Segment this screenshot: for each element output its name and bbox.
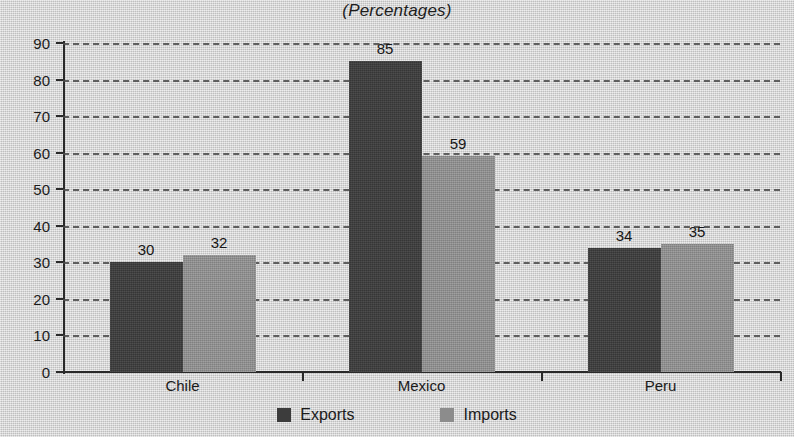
plot-area: 303285593435 <box>63 43 780 372</box>
x-tick-1 <box>302 372 304 381</box>
bar-peru-imports[interactable] <box>661 244 734 372</box>
exports-swatch-icon <box>277 408 291 422</box>
chart-page: (Percentages) 0102030405060708090 303285… <box>0 0 794 437</box>
imports-swatch-icon <box>440 408 454 422</box>
x-axis-label-chile: Chile <box>110 378 256 393</box>
y-axis-label-30: 30 <box>0 255 50 270</box>
legend-label-exports: Exports <box>300 407 354 423</box>
gridline-80 <box>63 80 780 82</box>
y-axis-label-90: 90 <box>0 36 50 51</box>
y-axis-label-80: 80 <box>0 73 50 88</box>
x-axis-label-peru: Peru <box>588 378 734 393</box>
bar-value-peru-imports: 35 <box>661 224 734 239</box>
x-tick-2 <box>541 372 543 381</box>
y-axis-label-10: 10 <box>0 328 50 343</box>
y-axis-label-40: 40 <box>0 219 50 234</box>
y-axis-label-50: 50 <box>0 182 50 197</box>
legend-item-exports[interactable]: Exports <box>277 407 354 423</box>
legend-item-imports[interactable]: Imports <box>440 407 516 423</box>
bar-value-chile-exports: 30 <box>110 242 183 257</box>
gridline-90 <box>63 43 780 45</box>
chart-title: (Percentages) <box>0 1 794 21</box>
bar-chile-imports[interactable] <box>183 255 256 372</box>
bar-mexico-exports[interactable] <box>349 61 422 372</box>
y-axis-label-20: 20 <box>0 292 50 307</box>
bar-peru-exports[interactable] <box>588 248 661 372</box>
bar-mexico-imports[interactable] <box>422 156 495 372</box>
legend-label-imports: Imports <box>463 407 516 423</box>
y-axis-label-60: 60 <box>0 146 50 161</box>
x-axis-label-mexico: Mexico <box>349 378 495 393</box>
bar-value-peru-exports: 34 <box>588 228 661 243</box>
bar-value-mexico-exports: 85 <box>349 41 422 56</box>
y-axis-label-70: 70 <box>0 109 50 124</box>
bar-chile-exports[interactable] <box>110 262 183 372</box>
x-tick-3 <box>780 372 782 381</box>
bar-value-mexico-imports: 59 <box>422 136 495 151</box>
y-axis-label-0: 0 <box>0 365 50 380</box>
chart-legend: Exports Imports <box>0 407 794 423</box>
gridline-60 <box>63 153 780 155</box>
gridline-70 <box>63 116 780 118</box>
bar-value-chile-imports: 32 <box>183 235 256 250</box>
